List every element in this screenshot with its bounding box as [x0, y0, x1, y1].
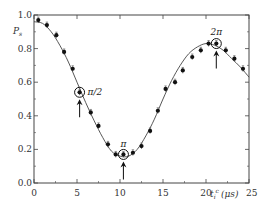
annotation-label: 2π: [209, 27, 223, 37]
data-point: [190, 55, 194, 59]
y-tick-label: 1.0: [18, 10, 33, 20]
data-point: [62, 50, 66, 54]
y-tick-label: 0.4: [18, 111, 33, 121]
data-point: [232, 57, 236, 61]
data-point: [77, 90, 81, 94]
axis-ticks: [34, 15, 249, 183]
data-point: [241, 67, 245, 71]
error-bars: [37, 17, 244, 157]
data-point: [114, 152, 118, 156]
data-point: [131, 151, 135, 155]
data-point: [206, 41, 210, 45]
x-tick-label: 10: [114, 188, 126, 198]
data-point: [36, 18, 40, 22]
data-point: [121, 152, 125, 156]
y-tick-label: 0.0: [18, 178, 33, 188]
data-point: [181, 68, 185, 72]
plot-frame: [34, 15, 249, 183]
y-axis-title: Ps: [12, 26, 22, 37]
x-tick-label: 15: [157, 188, 169, 198]
annotation-label: π: [119, 139, 127, 149]
data-point: [156, 109, 160, 113]
data-point: [139, 144, 143, 148]
annotation-label: π/2: [87, 87, 103, 97]
x-tick-label: 5: [74, 188, 80, 198]
data-point: [148, 129, 152, 133]
data-point: [54, 33, 58, 37]
data-point: [214, 41, 218, 45]
x-tick-label: 0: [31, 188, 37, 198]
data-point: [173, 80, 177, 84]
x-tick-label: 25: [246, 188, 258, 198]
tick-labels: 05101520250.00.20.40.60.81.0: [18, 10, 258, 198]
y-tick-label: 0.8: [18, 44, 33, 54]
data-point: [163, 87, 167, 91]
rabi-oscillation-chart: 05101520250.00.20.40.60.81.0 π/2π2π Ps t…: [0, 0, 264, 209]
data-point: [224, 48, 228, 52]
y-tick-label: 0.2: [18, 144, 32, 154]
data-point: [89, 110, 93, 114]
data-point: [45, 23, 49, 27]
y-tick-label: 0.6: [18, 77, 33, 87]
data-point: [199, 48, 203, 52]
data-point: [71, 67, 75, 71]
data-point: [106, 142, 110, 146]
data-point: [96, 124, 100, 128]
x-axis-title: tic(μs): [210, 187, 239, 200]
